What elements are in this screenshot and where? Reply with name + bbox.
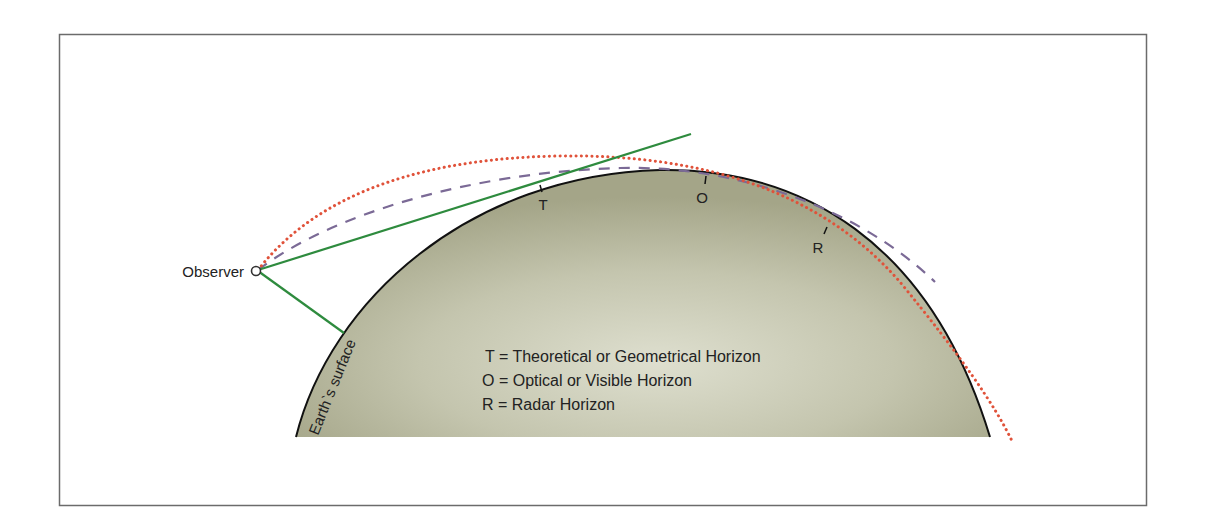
legend-item-t: T = Theoretical or Geometrical Horizon [485,348,761,365]
observer-point-icon [252,267,261,276]
t-marker-label: T [538,196,547,213]
o-marker-label: O [696,189,708,206]
observer-label: Observer [182,263,244,280]
legend-item-o: O = Optical or Visible Horizon [482,372,692,389]
legend-item-r: R = Radar Horizon [482,396,615,413]
earth-body [296,170,990,437]
o-tick [705,176,706,184]
r-marker-label: R [813,239,824,256]
earth-fill [296,170,990,437]
ground-sightline [258,271,344,333]
horizon-diagram: Observer T O R Earth`s surface T = Theor… [0,0,1208,531]
